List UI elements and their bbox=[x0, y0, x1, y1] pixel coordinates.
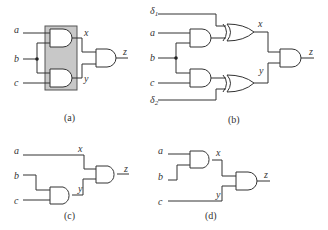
input-label-delta1: δ1 bbox=[150, 5, 158, 18]
and-gate-output bbox=[96, 166, 114, 183]
and-gate bbox=[190, 69, 211, 87]
input-label-b: b bbox=[14, 53, 19, 64]
input-label-b: b bbox=[14, 170, 19, 181]
panel-a: a b c x y z (a) bbox=[14, 24, 128, 124]
label-x: x bbox=[77, 143, 83, 154]
and-gate bbox=[50, 187, 69, 204]
input-label-delta2: δ2 bbox=[150, 94, 159, 107]
and-gate-output bbox=[280, 49, 301, 67]
input-label-a: a bbox=[14, 24, 19, 35]
output-label-z: z bbox=[123, 163, 128, 174]
panel-c: a b c x y z (c) bbox=[14, 143, 129, 222]
input-label-c: c bbox=[158, 196, 163, 207]
junction-dot bbox=[35, 57, 39, 61]
label-x: x bbox=[83, 27, 89, 38]
and-gate bbox=[190, 151, 209, 168]
label-x: x bbox=[215, 147, 221, 158]
caption-a: (a) bbox=[64, 112, 75, 124]
and-gate bbox=[190, 29, 211, 47]
output-label-z: z bbox=[122, 46, 127, 57]
label-y: y bbox=[258, 65, 264, 76]
input-label-c: c bbox=[14, 77, 19, 88]
and-gate bbox=[50, 29, 72, 47]
input-label-a: a bbox=[158, 145, 163, 156]
input-label-c: c bbox=[150, 77, 155, 88]
output-label-z: z bbox=[308, 46, 313, 57]
caption-c: (c) bbox=[64, 210, 75, 222]
label-y: y bbox=[77, 183, 83, 194]
and-gate-output bbox=[236, 172, 257, 190]
input-label-c: c bbox=[14, 195, 19, 206]
xor-gate bbox=[227, 75, 254, 92]
input-label-a: a bbox=[150, 27, 155, 38]
caption-b: (b) bbox=[228, 114, 240, 126]
and-gate-output bbox=[96, 49, 116, 67]
panel-b: δ1 a b c δ2 x y z (b) bbox=[150, 5, 314, 126]
label-y: y bbox=[83, 73, 89, 84]
input-label-b: b bbox=[158, 171, 163, 182]
and-gate bbox=[50, 69, 72, 87]
logic-circuits-diagram: a b c x y z (a) bbox=[0, 0, 328, 230]
output-label-z: z bbox=[263, 169, 268, 180]
label-y: y bbox=[215, 189, 221, 200]
caption-d: (d) bbox=[205, 210, 217, 222]
panel-d: a b c x y z (d) bbox=[158, 145, 270, 222]
xor-gate bbox=[227, 24, 254, 41]
junction-dot bbox=[174, 56, 178, 60]
input-label-b: b bbox=[150, 52, 155, 63]
label-x: x bbox=[257, 18, 263, 29]
input-label-a: a bbox=[14, 145, 19, 156]
